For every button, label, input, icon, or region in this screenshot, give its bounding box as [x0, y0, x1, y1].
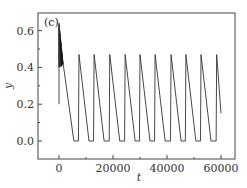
chart: 0200004000060000 0.00.20.40.6 (c) t y: [0, 0, 247, 188]
plot-frame: [38, 13, 235, 159]
x-tick-label: 20000: [96, 162, 131, 175]
y-tick-label: 0.0: [17, 135, 35, 148]
x-tick-label: 60000: [204, 162, 239, 175]
data-line: [59, 23, 221, 141]
x-tick-label: 40000: [150, 162, 185, 175]
x-tick-label: 0: [56, 162, 63, 175]
series-line: [59, 23, 221, 141]
panel-label: (c): [44, 16, 59, 29]
y-tick-label: 0.6: [17, 25, 35, 38]
y-tick-label: 0.2: [17, 98, 35, 111]
y-tick-label: 0.4: [17, 61, 35, 74]
x-axis: 0200004000060000: [56, 155, 239, 175]
x-axis-label: t: [137, 171, 142, 184]
y-axis-label: y: [2, 82, 15, 90]
